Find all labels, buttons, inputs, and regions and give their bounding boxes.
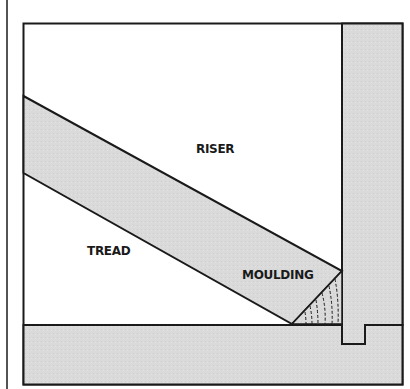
label-moulding: MOULDING (242, 268, 313, 282)
label-riser: RISER (196, 142, 234, 156)
label-tread: TREAD (87, 244, 131, 258)
vertical-post (342, 24, 403, 345)
stair-moulding-diagram: RISER TREAD MOULDING (0, 0, 410, 389)
